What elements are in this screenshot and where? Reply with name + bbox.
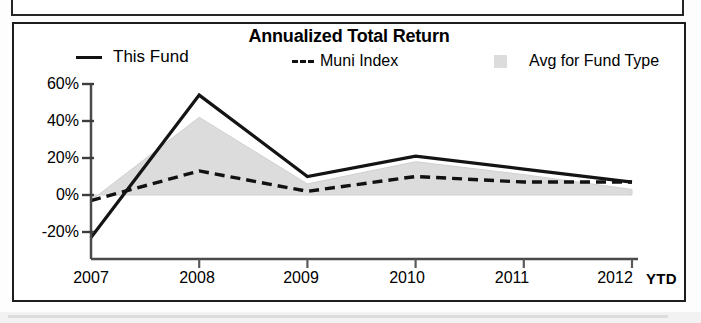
x-tick-label-2007: 2007 — [61, 270, 121, 286]
x-tick-label-2011: 2011 — [482, 270, 542, 286]
y-tick-label-neg20: -20% — [17, 224, 79, 240]
y-tick-label-0: 0% — [17, 187, 79, 203]
chart-plot-svg — [14, 24, 688, 304]
plot-area: 60% 40% 20% 0% -20% 2007 2008 2009 2010 … — [14, 24, 688, 304]
x-tick-label-2010: 2010 — [377, 270, 437, 286]
x-tick-label-2009: 2009 — [271, 270, 331, 286]
x-tick-label-2008: 2008 — [167, 270, 227, 286]
y-tick-label-60: 60% — [17, 76, 79, 92]
x-tick-label-2012: 2012 — [585, 270, 645, 286]
y-tick-label-40: 40% — [17, 113, 79, 129]
annualized-total-return-chart-panel: Annualized Total Return This Fund Muni I… — [12, 22, 686, 302]
x-axis-ticks — [91, 259, 632, 268]
x-axis-ytd-label: YTD — [646, 271, 677, 286]
clipped-panel-above — [11, 0, 684, 16]
y-tick-label-20: 20% — [17, 150, 79, 166]
scan-edge-strip — [0, 312, 701, 323]
